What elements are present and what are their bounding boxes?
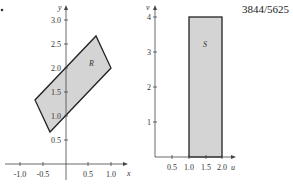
u-axis-arrow-icon [231,155,236,159]
right-plot: 0.5 1.0 1.5 2.0 u 1 2 3 4 v S [146,3,236,172]
y-tick-label: 1.5 [51,88,61,97]
v-axis-arrow-icon [153,5,157,10]
x-tick-label: -1.0 [14,170,27,179]
region-r [35,36,111,132]
v-tick-label: 2 [147,83,151,92]
u-tick-label: 1.0 [184,163,194,172]
u-tick-label: 0.5 [167,163,177,172]
bullet-mark [1,9,4,12]
u-tick-label: 2.0 [217,163,227,172]
y-tick-label: 2.0 [51,64,61,73]
u-tick-label: 1.5 [201,163,211,172]
x-tick-label: 0.5 [83,170,93,179]
v-tick-label: 4 [147,13,151,22]
left-plot: -1.0 -0.5 0.5 1.0 x 0.5 1.0 1.5 2.0 2.5 … [5,3,131,180]
y-tick-label: 0.5 [51,136,61,145]
u-axis-label: u [231,163,235,172]
x-axis-arrow-icon [123,162,128,166]
v-tick-label: 1 [147,118,151,127]
y-axis-label: y [57,3,62,12]
region-s-label: S [203,40,207,49]
region-s [189,17,222,157]
v-tick-label: 3 [147,48,151,57]
figure-canvas: -1.0 -0.5 0.5 1.0 x 0.5 1.0 1.5 2.0 2.5 … [0,0,293,184]
region-r-label: R [88,59,94,68]
y-axis-arrow-icon [64,5,68,10]
v-axis-label: v [146,3,150,12]
y-tick-label: 3.0 [51,16,61,25]
y-tick-label: 1.0 [51,112,61,121]
x-tick-label: 1.0 [106,170,116,179]
x-axis-label: x [126,169,131,178]
y-tick-label: 2.5 [51,40,61,49]
page-number: 3844/5625 [242,3,289,15]
x-tick-label: -0.5 [37,170,50,179]
